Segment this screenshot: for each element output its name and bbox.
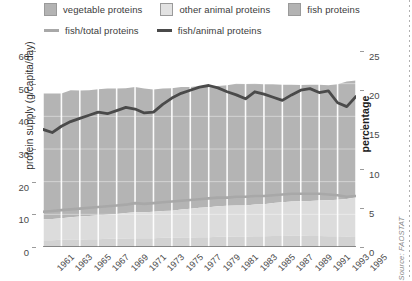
source-note: Source: FAOSTAT bbox=[397, 161, 406, 281]
chart-svg bbox=[43, 51, 356, 247]
legend-areas: vegetable proteins other animal proteins… bbox=[44, 3, 378, 16]
page-edge-rule bbox=[409, 0, 410, 278]
x-axis-tick-label: 1993 bbox=[349, 252, 370, 273]
x-axis-tick-label: 1981 bbox=[239, 252, 260, 273]
y-axis-right-tick: 5 bbox=[369, 208, 374, 219]
x-axis-tick-label: 1973 bbox=[165, 252, 186, 273]
legend-item-other-animal-proteins: other animal proteins bbox=[160, 3, 270, 16]
legend-label-fish-proteins: fish proteins bbox=[307, 4, 360, 15]
legend-label-other-animal-proteins: other animal proteins bbox=[179, 4, 270, 15]
y-axis-right-tickmark bbox=[360, 208, 364, 209]
legend-swatch-fish-proteins bbox=[288, 3, 301, 16]
x-axis-tick-label: 1961 bbox=[55, 252, 76, 273]
y-axis-right-tickmark bbox=[360, 247, 364, 248]
legend-swatch-other-animal-proteins bbox=[160, 3, 173, 16]
x-axis-tick-label: 1985 bbox=[276, 252, 297, 273]
legend-item-fish-total-proteins: fish/total proteins bbox=[44, 25, 139, 36]
legend-label-vegetable-proteins: vegetable proteins bbox=[63, 4, 142, 15]
legend-item-fish-proteins: fish proteins bbox=[288, 3, 360, 16]
x-axis-tick-label: 1969 bbox=[129, 252, 150, 273]
y-axis-right-tickmark bbox=[360, 51, 364, 52]
x-axis-tick-label: 1989 bbox=[313, 252, 334, 273]
x-axis-tick-label: 1979 bbox=[221, 252, 242, 273]
x-axis-tick-label: 1971 bbox=[147, 252, 168, 273]
x-axis-labels: 1961196319651967196919711973197519771979… bbox=[0, 249, 412, 278]
legend-item-vegetable-proteins: vegetable proteins bbox=[44, 3, 142, 16]
y-axis-right-tick: 25 bbox=[369, 51, 380, 62]
y-axis-left-title: protein supply (g/capita/day) bbox=[24, 11, 35, 201]
y-axis-right-title: percentage bbox=[359, 64, 371, 184]
legend-item-fish-animal-proteins: fish/animal proteins bbox=[157, 25, 262, 36]
legend-line-fish-total-proteins bbox=[44, 29, 59, 32]
y-axis-left-tick: 10 bbox=[18, 214, 29, 225]
legend-line-fish-animal-proteins bbox=[157, 29, 172, 33]
y-axis-left-tickmark bbox=[32, 214, 36, 215]
x-axis-tick-label: 1977 bbox=[202, 252, 223, 273]
plot-area bbox=[43, 51, 356, 247]
x-axis-tick-label: 1983 bbox=[257, 252, 278, 273]
x-axis-tick-label: 1987 bbox=[294, 252, 315, 273]
x-axis-tick-label: 1995 bbox=[368, 252, 389, 273]
y-axis-left-tickmark bbox=[32, 247, 36, 248]
x-axis-tick-label: 1967 bbox=[110, 252, 131, 273]
x-axis-tick-label: 1975 bbox=[184, 252, 205, 273]
legend-label-fish-animal-proteins: fish/animal proteins bbox=[178, 25, 262, 36]
x-axis-tick-label: 1963 bbox=[73, 252, 94, 273]
legend-lines: fish/total proteins fish/animal proteins bbox=[44, 25, 280, 36]
x-axis-tick-label: 1991 bbox=[331, 252, 352, 273]
x-axis-tick-label: 1965 bbox=[92, 252, 113, 273]
legend-label-fish-total-proteins: fish/total proteins bbox=[65, 25, 139, 36]
legend-swatch-vegetable-proteins bbox=[44, 3, 57, 16]
